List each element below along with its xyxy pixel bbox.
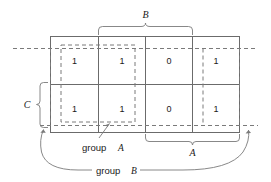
- axis-label-a: A: [188, 147, 196, 158]
- cell-r0-c0: 1: [72, 56, 77, 66]
- axis-bracket-c: C: [24, 83, 48, 128]
- kmap-grid: [51, 37, 240, 133]
- group-b-arrowhead-right: [246, 130, 251, 134]
- kmap-canvas: 1 1 0 1 1 1 0 1 B C A group: [0, 0, 271, 182]
- cell-r1-c2: 0: [166, 104, 171, 114]
- karnaugh-map-diagram: 1 1 0 1 1 1 0 1 B C A group: [0, 0, 271, 182]
- group-a-label-text: group: [82, 142, 106, 153]
- cell-r1-c1: 1: [119, 104, 124, 114]
- group-a-arrowhead: [106, 124, 110, 128]
- cell-r1-c0: 1: [72, 104, 77, 114]
- bracket-b-path: [99, 23, 193, 35]
- cell-r0-c1: 1: [119, 56, 124, 66]
- axis-label-c: C: [24, 99, 31, 110]
- group-b-arrowhead-left: [40, 130, 46, 133]
- group-a-annotation: group A: [82, 124, 124, 154]
- bracket-a-path: [146, 134, 240, 145]
- axis-bracket-b: B: [99, 9, 193, 35]
- bracket-c-path: [37, 83, 49, 128]
- axis-label-b: B: [142, 9, 148, 20]
- cell-r1-c3: 1: [213, 104, 218, 114]
- group-b-label-var: B: [131, 166, 137, 176]
- group-b-label-text: group: [96, 165, 120, 176]
- axis-bracket-a: A: [146, 134, 240, 158]
- cell-r0-c2: 0: [166, 56, 171, 66]
- cell-r0-c3: 1: [213, 56, 218, 66]
- group-b-leader-left: [41, 130, 78, 171]
- group-a-label-var: A: [117, 143, 124, 153]
